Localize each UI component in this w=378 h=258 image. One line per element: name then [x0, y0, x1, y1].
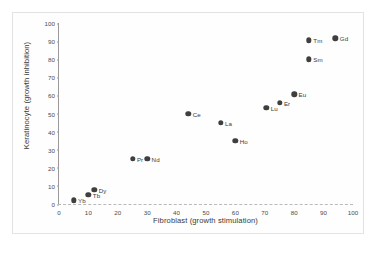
data-point-label-lu: Lu: [266, 105, 277, 112]
data-point-label-er: Er: [280, 99, 291, 106]
data-point-label-gd: Gd: [335, 35, 348, 42]
y-tick-label: 50: [48, 110, 59, 117]
data-point-label-nd: Nd: [147, 155, 160, 162]
y-tick-label: 80: [48, 56, 59, 63]
data-point-label-ce: Ce: [188, 110, 201, 117]
x-tick-label: 90: [320, 204, 327, 216]
plot-area: 0102030405060708090100 01020304050607080…: [58, 23, 353, 204]
y-tick-label: 100: [44, 20, 59, 27]
y-tick-label: 70: [48, 74, 59, 81]
data-point-label-sm: Sm: [309, 56, 323, 63]
data-point-label-tm: Tm: [309, 37, 323, 44]
data-point-label-dy: Dy: [94, 186, 106, 193]
data-point-label-pr: Pr: [133, 155, 144, 162]
x-axis-title: Fibroblast (growth stimulation): [58, 216, 353, 225]
y-tick-label: 20: [48, 164, 59, 171]
x-tick-label: 50: [202, 204, 209, 216]
y-tick-label: 90: [48, 38, 59, 45]
x-tick-label: 20: [114, 204, 121, 216]
x-axis-line: [58, 204, 353, 205]
x-tick-label: 10: [85, 204, 92, 216]
x-tick-label: 60: [232, 204, 239, 216]
y-tick-label: 40: [48, 128, 59, 135]
x-tick-label: 30: [144, 204, 151, 216]
data-point-label-eu: Eu: [294, 91, 306, 98]
y-tick-label: 60: [48, 92, 59, 99]
data-point-label-ho: Ho: [235, 137, 248, 144]
y-axis-title: Keratinocyte (growth inhibition): [22, 16, 31, 176]
y-tick-label: 30: [48, 146, 59, 153]
scatter-chart-figure: 0102030405060708090100 01020304050607080…: [12, 12, 364, 234]
data-point-label-yb: Yb: [74, 197, 86, 204]
y-tick-label: 10: [48, 182, 59, 189]
data-point-label-la: La: [221, 119, 232, 126]
x-tick-label: 0: [57, 204, 61, 216]
x-tick-label: 40: [173, 204, 180, 216]
x-tick-label: 70: [261, 204, 268, 216]
x-tick-label: 80: [291, 204, 298, 216]
x-tick-label: 100: [348, 204, 359, 216]
